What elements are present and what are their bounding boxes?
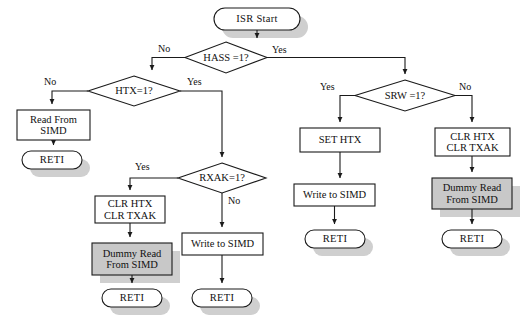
node-reti-left [22,151,82,169]
node-reti-right-b [442,230,502,248]
edge-label-hass-yes: Yes [272,44,287,55]
node-write-to-simd-rt [294,184,375,206]
edge-hass-yes [267,58,405,75]
node-write-to-simd-mid [182,233,263,255]
edge-label-srw-yes: Yes [320,81,335,92]
node-hass-decision [185,42,267,73]
node-isr-start [214,8,300,30]
edge-hass-no [152,58,185,71]
edge-htx-no [52,91,88,104]
edge-label-rxak-no: No [228,195,240,206]
node-srw-decision [355,80,455,111]
node-reti-mid-left [102,289,162,307]
edge-htx-yes [180,91,222,157]
node-read-from-simd [17,110,90,140]
edge-rxak-yes [130,178,178,190]
edge-label-hass-no: No [158,43,170,54]
node-reti-mid-right [192,289,252,307]
edge-label-htx-yes: Yes [187,76,202,87]
edge-label-rxak-yes: Yes [135,161,150,172]
flowchart-diagram: ISR Start HASS =1? HTX=1? Read From SIMD… [0,0,521,331]
node-htx-decision [88,76,180,106]
node-clr-htx-txak-mid [95,196,165,223]
edge-srw-no [455,96,472,123]
edge-label-srw-no: No [459,81,471,92]
node-clr-htx-txak-rt [435,128,510,156]
edge-srw-yes [340,96,355,123]
node-dummy-read-mid [92,243,172,275]
edge-label-htx-no: No [44,76,56,87]
node-set-htx [300,128,380,152]
flow-nodes [17,8,512,307]
flowchart-canvas [0,0,521,331]
node-rxak-decision [178,163,266,193]
node-reti-right-a [305,230,365,248]
node-dummy-read-rt [432,178,512,209]
